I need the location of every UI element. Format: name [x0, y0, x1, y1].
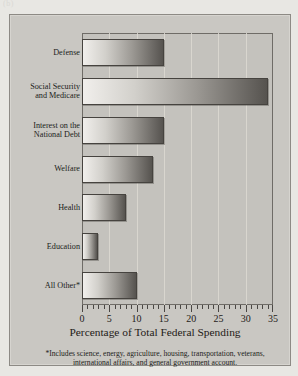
- x-tick-minor: [158, 305, 159, 309]
- bar-row: [82, 272, 273, 299]
- x-tick-minor: [262, 305, 263, 309]
- chart-panel: DefenseSocial Securityand MedicareIntere…: [9, 14, 291, 366]
- bar: [82, 78, 268, 105]
- x-tick-label: 30: [234, 313, 258, 324]
- bar: [82, 194, 126, 221]
- x-tick-label: 15: [152, 313, 176, 324]
- x-tick-major: [137, 305, 138, 312]
- category-label-line: Interest on the: [16, 121, 80, 131]
- category-label: Education: [16, 242, 80, 252]
- bar: [82, 272, 137, 299]
- category-label: Social Securityand Medicare: [16, 82, 80, 101]
- x-tick-major: [272, 305, 273, 312]
- x-tick-label: 10: [125, 313, 149, 324]
- x-tick-label: 20: [179, 313, 203, 324]
- bar-row: [82, 194, 273, 221]
- category-label-line: Welfare: [16, 164, 80, 174]
- bar: [82, 233, 98, 260]
- x-tick-minor: [147, 305, 148, 309]
- category-axis-labels: DefenseSocial Securityand MedicareIntere…: [16, 33, 80, 305]
- category-label-line: National Debt: [16, 130, 80, 140]
- x-tick-minor: [131, 305, 132, 309]
- category-label-line: Health: [16, 203, 80, 213]
- category-label-line: and Medicare: [16, 91, 80, 101]
- footnote: *Includes science, energy, agriculture, …: [32, 349, 278, 368]
- x-tick-major: [218, 305, 219, 312]
- x-tick-major: [109, 305, 110, 312]
- category-label: Health: [16, 203, 80, 213]
- x-tick-minor: [251, 305, 252, 309]
- bar-row: [82, 39, 273, 66]
- x-tick-label: 0: [70, 313, 94, 324]
- x-tick-minor: [202, 305, 203, 309]
- figure-page: (b) DefenseSocial Securityand MedicareIn…: [0, 0, 298, 376]
- x-tick-label: 5: [97, 313, 121, 324]
- category-label-line: Social Security: [16, 82, 80, 92]
- category-label-line: Defense: [16, 48, 80, 58]
- category-label: All Other*: [16, 281, 80, 291]
- x-tick-minor: [87, 305, 88, 309]
- bar-row: [82, 78, 273, 105]
- x-tick-label: 35: [261, 313, 285, 324]
- x-tick-minor: [257, 305, 258, 309]
- x-tick-minor: [180, 305, 181, 309]
- category-label-line: All Other*: [16, 281, 80, 291]
- x-tick-major: [191, 305, 192, 312]
- x-tick-minor: [115, 305, 116, 309]
- figure-tag: (b): [3, 0, 33, 10]
- x-tick-minor: [186, 305, 187, 309]
- x-tick-minor: [120, 305, 121, 309]
- x-tick-minor: [104, 305, 105, 309]
- category-label: Defense: [16, 48, 80, 58]
- bar-series: [82, 33, 273, 305]
- bar-row: [82, 156, 273, 183]
- x-tick-label: 25: [206, 313, 230, 324]
- x-tick-minor: [235, 305, 236, 309]
- category-label-line: Education: [16, 242, 80, 252]
- category-label: Interest on theNational Debt: [16, 121, 80, 140]
- x-tick-minor: [208, 305, 209, 309]
- x-tick-major: [164, 305, 165, 312]
- bar-row: [82, 117, 273, 144]
- x-tick-minor: [268, 305, 269, 309]
- x-tick-minor: [224, 305, 225, 309]
- x-tick-minor: [98, 305, 99, 309]
- x-tick-minor: [126, 305, 127, 309]
- x-tick-minor: [142, 305, 143, 309]
- x-axis-tick-labels: 05101520253035: [62, 313, 294, 327]
- x-tick-minor: [197, 305, 198, 309]
- x-tick-minor: [169, 305, 170, 309]
- x-tick-minor: [175, 305, 176, 309]
- bar-row: [82, 233, 273, 260]
- x-tick-minor: [93, 305, 94, 309]
- bar: [82, 156, 153, 183]
- bar: [82, 117, 164, 144]
- category-label: Welfare: [16, 164, 80, 174]
- x-tick-minor: [153, 305, 154, 309]
- x-tick-major: [82, 305, 83, 312]
- x-tick-minor: [213, 305, 214, 309]
- x-tick-major: [246, 305, 247, 312]
- bar: [82, 39, 164, 66]
- plot-area: [82, 33, 273, 305]
- x-tick-minor: [240, 305, 241, 309]
- x-axis-title: Percentage of Total Federal Spending: [30, 326, 280, 338]
- x-tick-minor: [229, 305, 230, 309]
